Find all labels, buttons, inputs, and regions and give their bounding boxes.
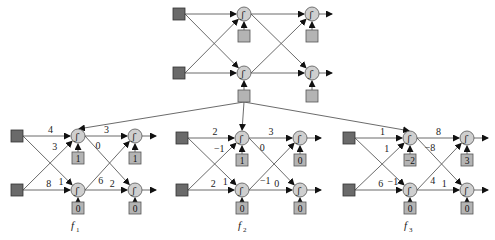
neuron-circle: [403, 183, 417, 197]
top-hidden-edge: [251, 19, 306, 73]
neuron-f2-l2-1: ʃ: [293, 131, 307, 145]
top-neuron-l2-1: ʃ: [305, 7, 319, 21]
weight-label: 4: [48, 124, 53, 135]
neuron-f3-l1-1: ʃ: [403, 131, 417, 145]
edges-layer: [23, 14, 488, 202]
bias-value-label: 0: [408, 204, 413, 214]
neuron-f2-l2-2: ʃ: [293, 183, 307, 197]
neuron-circle: [403, 131, 417, 145]
neuron-circle: [237, 66, 251, 80]
top-neuron-l1-2: ʃ: [237, 66, 251, 80]
top-bias-l2-1: [306, 30, 318, 42]
input-node-f1-2: [11, 184, 23, 196]
weight-label: 1: [380, 126, 385, 137]
top-input-node-2: [173, 67, 185, 79]
top-input-edge: [185, 19, 238, 73]
input-node-f3-2: [343, 184, 355, 196]
top-input-edge: [185, 14, 238, 68]
input-node-f2-2: [176, 184, 188, 196]
neuron-f3-l2-1: ʃ: [460, 131, 474, 145]
neuron-f3-l1-2: ʃ: [403, 183, 417, 197]
bias-value-label: 0: [133, 204, 138, 214]
weight-label: 8: [46, 178, 51, 189]
weight-label: 2: [213, 126, 218, 137]
weight-label: 2: [211, 178, 216, 189]
weight-label: 3: [104, 124, 109, 135]
nodes-layer: ʃʃʃʃʃʃʃʃʃʃʃʃʃʃʃʃ: [11, 7, 474, 214]
input-node-f3-1: [343, 132, 355, 144]
neuron-circle: [293, 183, 307, 197]
bias-value-label: −2: [405, 156, 415, 166]
bias-value-label: 1: [133, 154, 138, 164]
fanout-edge-f2: [242, 102, 244, 130]
neuron-f2-l1-2: ʃ: [235, 183, 249, 197]
weight-label: 0: [274, 178, 279, 189]
neuron-circle: [71, 129, 85, 143]
neural-network-diagram: ʃʃʃʃʃʃʃʃʃʃʃʃʃʃʃʃ 101043183062f110002−112…: [0, 0, 495, 240]
weight-label: 1: [223, 176, 228, 187]
weight-label: 6: [98, 175, 103, 186]
hidden-weight-edge: [85, 136, 129, 184]
top-bias-l2-2: [306, 90, 318, 102]
top-neuron-l2-2: ʃ: [305, 66, 319, 80]
neuron-circle: [237, 7, 251, 21]
bias-value-label: 0: [240, 204, 245, 214]
neuron-f1-l1-1: ʃ: [71, 129, 85, 143]
weight-label: 8: [436, 126, 441, 137]
top-bias-l1-2: [238, 90, 250, 102]
bias-value-label: 1: [240, 156, 245, 166]
neuron-circle: [460, 183, 474, 197]
top-input-node-1: [173, 8, 185, 20]
neuron-f2-l1-1: ʃ: [235, 131, 249, 145]
input-node-f1-1: [11, 130, 23, 142]
top-bias-l1-1: [238, 30, 250, 42]
bias-value-label: 1: [76, 154, 81, 164]
weight-label: 0: [260, 142, 265, 153]
neuron-circle: [128, 129, 142, 143]
weight-label: 4: [430, 175, 435, 186]
bias-value-label: 0: [298, 204, 303, 214]
neuron-f1-l2-2: ʃ: [128, 183, 142, 197]
weight-label: 1: [58, 176, 63, 187]
neuron-circle: [128, 183, 142, 197]
neuron-circle: [235, 183, 249, 197]
weight-label: −1: [388, 176, 399, 187]
network-label-subscript: 1: [76, 226, 80, 234]
hidden-weight-edge: [249, 143, 294, 190]
weight-label: 1: [442, 178, 447, 189]
weight-label: 2: [110, 178, 115, 189]
bias-value-label: 3: [465, 156, 470, 166]
bias-value-label: 0: [298, 156, 303, 166]
neuron-circle: [305, 66, 319, 80]
weight-label: 3: [52, 141, 57, 152]
hidden-weight-edge: [249, 138, 294, 185]
weight-label: −1: [260, 175, 271, 186]
neuron-circle: [235, 131, 249, 145]
weight-label: 3: [269, 126, 274, 137]
bias-value-label: 0: [465, 204, 470, 214]
weight-label: 1: [384, 143, 389, 154]
neuron-circle: [305, 7, 319, 21]
bias-value-label: 0: [76, 204, 81, 214]
weight-label: −8: [425, 142, 436, 153]
neuron-f1-l1-2: ʃ: [71, 183, 85, 197]
neuron-f3-l2-2: ʃ: [460, 183, 474, 197]
network-label-subscript: 3: [409, 226, 413, 234]
neuron-circle: [293, 131, 307, 145]
neuron-circle: [460, 131, 474, 145]
diagram-canvas: ʃʃʃʃʃʃʃʃʃʃʃʃʃʃʃʃ 101043183062f110002−112…: [0, 0, 495, 240]
hidden-weight-edge: [417, 143, 461, 190]
neuron-f1-l2-1: ʃ: [128, 129, 142, 143]
hidden-weight-edge: [85, 142, 129, 190]
hidden-weight-edge: [417, 138, 461, 185]
neuron-circle: [71, 183, 85, 197]
top-hidden-edge: [251, 14, 306, 68]
weight-label: 0: [95, 140, 100, 151]
weight-label: −1: [214, 143, 225, 154]
input-node-f2-1: [176, 132, 188, 144]
network-label-subscript: 2: [243, 226, 247, 234]
weight-label: 6: [378, 178, 383, 189]
top-neuron-l1-1: ʃ: [237, 7, 251, 21]
